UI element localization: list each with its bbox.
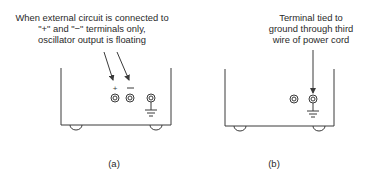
oscillator-a: + <box>61 52 171 130</box>
cabinet-outline-b <box>225 69 334 126</box>
panel-label-b: (b) <box>264 158 284 169</box>
oscillator-b <box>225 50 334 131</box>
foot-left-b <box>234 126 246 131</box>
terminal-output-b <box>290 95 298 103</box>
terminal-ground-b <box>307 95 319 117</box>
foot-right-b <box>313 126 325 131</box>
terminal-ground-a <box>145 94 157 116</box>
terminal-minus <box>126 94 134 102</box>
diagram-canvas: + <box>0 0 367 173</box>
arrow-plus <box>104 52 113 80</box>
arrow-minus <box>117 52 129 80</box>
plus-symbol: + <box>113 84 118 93</box>
foot-right-a <box>150 125 162 130</box>
terminal-plus <box>111 94 119 102</box>
panel-label-a: (a) <box>104 158 124 169</box>
foot-left-a <box>70 125 82 130</box>
